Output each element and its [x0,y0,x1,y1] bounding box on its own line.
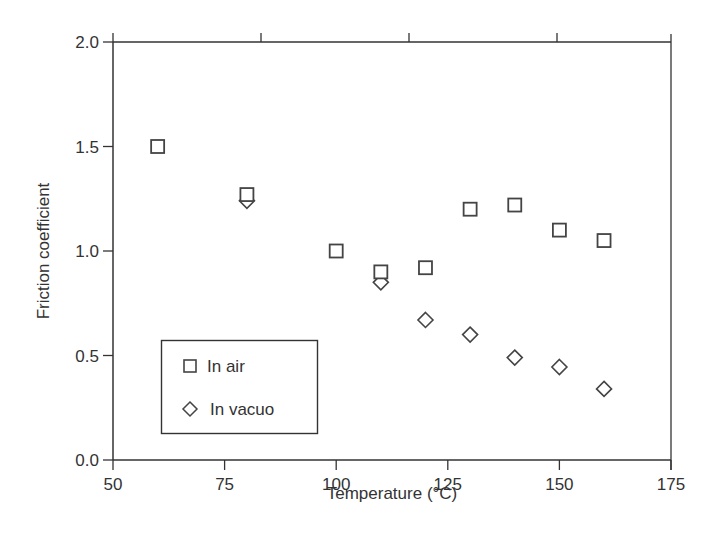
legend-box [162,341,318,434]
in-air-point [374,265,387,278]
in-air-point [419,261,432,274]
in-air-point [151,140,164,153]
legend: In air In vacuo [162,341,318,434]
y-tick-label: 0.5 [75,347,99,366]
in-air-point [508,199,521,212]
y-tick-label: 2.0 [75,33,99,52]
in-air-point [464,203,477,216]
in-vacuo-point [418,312,433,327]
y-axis: 0.00.51.01.52.0 [75,33,113,470]
x-tick-label: 75 [215,475,234,494]
legend-label-in-air: In air [207,357,245,376]
y-tick-label: 1.0 [75,242,99,261]
legend-square-marker-icon [184,360,196,372]
y-tick-label: 0.0 [75,451,99,470]
y-tick-label: 1.5 [75,138,99,157]
in-air-point [240,188,253,201]
x-axis-title: Temperature (°C) [327,484,458,503]
y-axis-title: Friction coefficient [34,182,53,319]
x-tick-label: 150 [545,475,573,494]
friction-temperature-chart: 5075100125150175 0.00.51.01.52.0 Tempera… [0,0,712,551]
in-vacuo-point [507,350,522,365]
plot-frame [113,34,671,470]
x-tick-label: 50 [104,475,123,494]
in-air-point [553,224,566,237]
in-vacuo-point [552,359,567,374]
in-vacuo-point [463,327,478,342]
in-air-point [330,245,343,258]
legend-label-in-vacuo: In vacuo [210,400,274,419]
legend-diamond-marker-icon [183,402,197,416]
x-tick-label: 175 [657,475,685,494]
in-air-point [598,234,611,247]
top-axis-ticks [113,33,557,42]
in-vacuo-point [597,381,612,396]
